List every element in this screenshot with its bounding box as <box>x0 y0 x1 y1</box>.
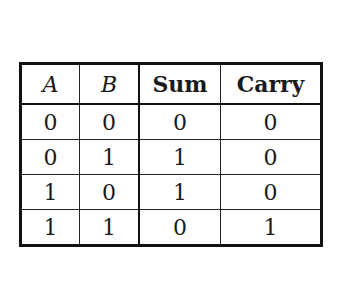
header-row: A B Sum Carry <box>21 64 322 105</box>
table-row: 0 0 0 0 <box>21 104 322 140</box>
cell-a: 1 <box>21 210 80 246</box>
header-carry: Carry <box>221 64 322 105</box>
cell-carry: 0 <box>221 104 322 140</box>
cell-a: 1 <box>21 175 80 210</box>
cell-b: 0 <box>80 104 140 140</box>
table-row: 1 1 0 1 <box>21 210 322 246</box>
cell-b: 1 <box>80 140 140 175</box>
cell-a: 0 <box>21 140 80 175</box>
cell-sum: 0 <box>139 210 221 246</box>
cell-sum: 0 <box>139 104 221 140</box>
cell-carry: 1 <box>221 210 322 246</box>
cell-sum: 1 <box>139 140 221 175</box>
cell-carry: 0 <box>221 175 322 210</box>
table-row: 0 1 1 0 <box>21 140 322 175</box>
header-b: B <box>80 64 140 105</box>
cell-sum: 1 <box>139 175 221 210</box>
cell-a: 0 <box>21 104 80 140</box>
half-adder-truth-table: A B Sum Carry 0 0 0 0 0 1 1 0 1 0 1 0 1 … <box>19 62 323 247</box>
header-sum: Sum <box>139 64 221 105</box>
cell-carry: 0 <box>221 140 322 175</box>
cell-b: 1 <box>80 210 140 246</box>
table-row: 1 0 1 0 <box>21 175 322 210</box>
header-a: A <box>21 64 80 105</box>
cell-b: 0 <box>80 175 140 210</box>
